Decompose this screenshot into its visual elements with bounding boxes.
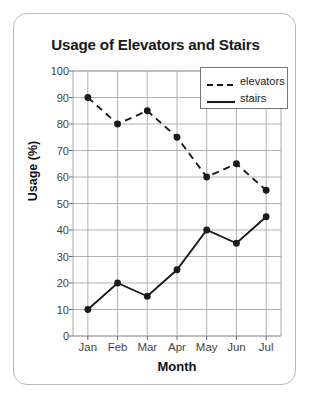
plot-svg	[73, 71, 281, 336]
x-axis-tick-labels: JanFebMarAprMayJunJul	[73, 341, 281, 361]
x-tick-label-Jul: Jul	[259, 341, 274, 353]
legend-line-sample-stairs	[206, 93, 236, 103]
y-tick-label-70: 70	[41, 145, 69, 157]
x-axis-title: Month	[73, 359, 281, 374]
data-point-elevators-May	[203, 174, 210, 181]
y-tick-label-30: 30	[41, 251, 69, 263]
x-tick-label-Jan: Jan	[79, 341, 98, 353]
data-point-stairs-Jan	[84, 306, 91, 313]
data-point-elevators-Jul	[263, 187, 270, 194]
data-point-stairs-Jul	[263, 213, 270, 220]
legend-line-sample-elevators	[206, 76, 236, 86]
data-point-stairs-May	[203, 227, 210, 234]
data-point-elevators-Mar	[144, 107, 151, 114]
x-tick-label-Feb: Feb	[108, 341, 128, 353]
data-point-elevators-Jan	[84, 94, 91, 101]
data-point-stairs-Jun	[233, 240, 240, 247]
x-tick-label-Apr: Apr	[168, 341, 186, 353]
data-point-stairs-Mar	[144, 293, 151, 300]
chart-card: Usage of Elevators and Stairs Usage (%) …	[13, 13, 296, 385]
y-tick-label-90: 90	[41, 92, 69, 104]
y-tick-label-50: 50	[41, 198, 69, 210]
chart-title: Usage of Elevators and Stairs	[14, 36, 297, 53]
legend-label-stairs: stairs	[240, 92, 266, 104]
chart-page: Usage of Elevators and Stairs Usage (%) …	[0, 0, 322, 412]
x-tick-label-May: May	[196, 341, 218, 353]
y-axis-tick-labels: 0102030405060708090100	[36, 71, 69, 336]
y-tick-label-60: 60	[41, 171, 69, 183]
data-point-elevators-Feb	[114, 121, 121, 128]
legend-item-stairs[interactable]: stairs	[206, 89, 282, 106]
grid-lines	[73, 71, 281, 336]
y-tick-label-20: 20	[41, 277, 69, 289]
x-tick-label-Jun: Jun	[227, 341, 246, 353]
axis-lines	[69, 71, 281, 340]
y-tick-label-80: 80	[41, 118, 69, 130]
x-tick-label-Mar: Mar	[137, 341, 157, 353]
chart-legend: elevatorsstairs	[200, 67, 288, 109]
data-point-stairs-Feb	[114, 280, 121, 287]
legend-item-elevators[interactable]: elevators	[206, 72, 282, 89]
plot-area	[73, 71, 281, 336]
data-point-stairs-Apr	[174, 266, 181, 273]
data-point-elevators-Jun	[233, 160, 240, 167]
y-tick-label-0: 0	[41, 330, 69, 342]
y-tick-label-40: 40	[41, 224, 69, 236]
legend-label-elevators: elevators	[240, 75, 285, 87]
data-point-elevators-Apr	[174, 134, 181, 141]
y-tick-label-100: 100	[41, 65, 69, 77]
y-tick-label-10: 10	[41, 304, 69, 316]
